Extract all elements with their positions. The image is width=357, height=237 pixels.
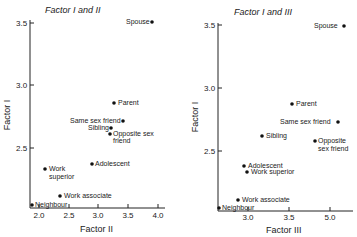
- svg-text:Neighbour: Neighbour: [222, 204, 255, 212]
- point-labels: Spouse Parent Same sex friend Sibling Op…: [222, 22, 348, 212]
- svg-text:3.0: 3.0: [92, 211, 104, 220]
- svg-text:3.5: 3.5: [283, 213, 295, 222]
- x-tick-labels: 3.0 3.5 5.0: [242, 213, 336, 222]
- y-tick: 2.5: [16, 144, 28, 153]
- svg-text:Spouse: Spouse: [314, 22, 338, 30]
- y-tick: 3.5: [16, 19, 28, 28]
- y-tick: 3.0: [16, 81, 28, 90]
- svg-text:Opposite: Opposite: [318, 137, 346, 145]
- svg-text:friend: friend: [113, 137, 131, 144]
- plot-area: 3.5 3.0 2.5 2.0 2.5 3.0 3.5 4.0 Spouse P…: [0, 0, 178, 237]
- y-tick-labels: 3.5 3.0 2.5: [16, 19, 28, 153]
- svg-text:Parent: Parent: [118, 99, 139, 106]
- x-tick-labels: 2.0 2.5 3.0 3.5 4.0: [33, 211, 164, 220]
- y-tick-labels: 3.5 3.0 2.5: [204, 21, 216, 156]
- chart-factor-1-2: Factor I and II Factor I Factor II 3.5 3…: [0, 0, 178, 237]
- svg-text:2.0: 2.0: [33, 211, 45, 220]
- svg-text:sex friend: sex friend: [318, 145, 348, 152]
- svg-text:Parent: Parent: [296, 100, 317, 107]
- point-labels: Spouse Parent Same sex friend Sibling Op…: [35, 18, 154, 209]
- svg-text:3.0: 3.0: [242, 213, 254, 222]
- svg-text:Sibling: Sibling: [88, 124, 109, 132]
- svg-text:Adolescent: Adolescent: [95, 160, 130, 167]
- svg-text:3.5: 3.5: [122, 211, 134, 220]
- svg-text:2.5: 2.5: [204, 147, 216, 156]
- svg-text:Same sex friend: Same sex friend: [70, 117, 121, 124]
- data-points: [217, 24, 346, 210]
- svg-text:Sibling: Sibling: [266, 132, 287, 140]
- svg-text:4.0: 4.0: [152, 211, 164, 220]
- svg-text:2.5: 2.5: [63, 211, 75, 220]
- svg-text:3.5: 3.5: [204, 21, 216, 30]
- svg-text:5.0: 5.0: [324, 213, 336, 222]
- svg-text:Work associate: Work associate: [64, 192, 112, 199]
- svg-text:superior: superior: [49, 173, 75, 181]
- chart-factor-1-3: Factor I and III Factor I Factor III 3.5…: [178, 0, 357, 237]
- svg-text:Work associate: Work associate: [242, 196, 290, 203]
- svg-text:Spouse: Spouse: [126, 18, 150, 26]
- svg-text:Neighbour: Neighbour: [35, 201, 68, 209]
- plot-area: 3.5 3.0 2.5 3.0 3.5 5.0 Spouse Parent Sa…: [178, 0, 357, 237]
- svg-text:Same sex friend: Same sex friend: [280, 118, 331, 125]
- axes: [218, 23, 353, 211]
- svg-text:Work superior: Work superior: [251, 168, 295, 176]
- svg-text:3.0: 3.0: [204, 84, 216, 93]
- svg-text:Work: Work: [49, 165, 66, 172]
